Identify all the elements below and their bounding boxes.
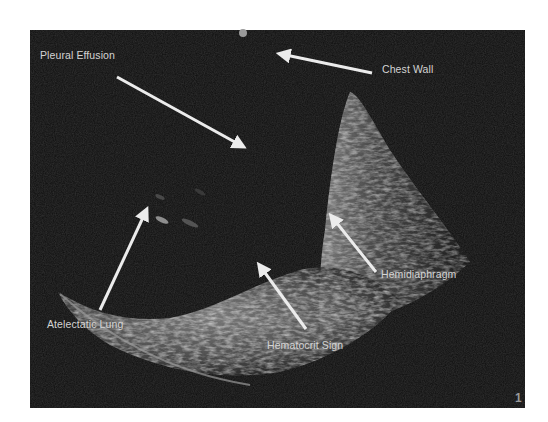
probe-marker-dot [239, 29, 247, 37]
label-hematocrit-sign: Hematocrit Sign [267, 339, 343, 351]
label-atelectatic-lung: Atelectatic Lung [47, 318, 123, 330]
ultrasound-figure: Pleural Effusion Chest Wall Atelectatic … [0, 0, 548, 422]
slide-number: 1 [515, 391, 522, 405]
label-chest-wall: Chest Wall [382, 63, 433, 75]
label-hemidiaphragm: Hemidiaphragm [381, 268, 456, 280]
label-pleural-effusion: Pleural Effusion [40, 49, 115, 61]
ultrasound-image [0, 0, 548, 422]
